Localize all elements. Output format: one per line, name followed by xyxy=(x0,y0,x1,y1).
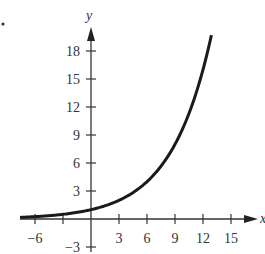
x-tick-label: 3 xyxy=(116,231,123,246)
x-tick-label: −6 xyxy=(28,231,43,246)
y-axis: 181512963−3 y xyxy=(65,8,96,254)
y-tick-label: 6 xyxy=(73,156,80,171)
x-axis-arrow-icon xyxy=(244,215,258,223)
x-axis-label: x xyxy=(259,211,265,226)
exponential-curve xyxy=(20,35,211,217)
y-tick-label: 12 xyxy=(66,100,80,115)
y-tick-label: 9 xyxy=(73,128,80,143)
y-tick-label: 15 xyxy=(66,72,80,87)
exponential-graph: −63691215 x 181512963−3 y xyxy=(0,0,265,254)
y-tick-label: 18 xyxy=(66,44,80,59)
y-tick-label: −3 xyxy=(65,240,80,254)
y-axis-arrow-icon xyxy=(87,27,95,41)
bullet-dot xyxy=(1,22,4,25)
y-tick-label: 3 xyxy=(73,184,80,199)
x-tick-label: 15 xyxy=(224,231,238,246)
x-tick-label: 12 xyxy=(196,231,210,246)
x-tick-label: 9 xyxy=(172,231,179,246)
x-tick-label: 6 xyxy=(144,231,151,246)
y-axis-label: y xyxy=(84,8,93,23)
